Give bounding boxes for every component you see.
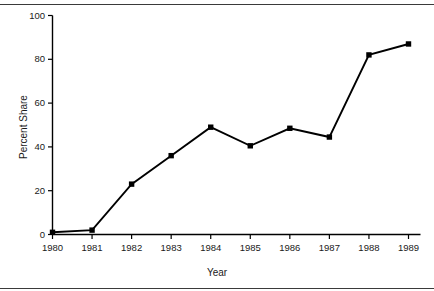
x-tick-label: 1982 [112,243,152,253]
y-tick-label: 20 [19,186,45,196]
data-point-marker [50,230,55,235]
x-tick-label: 1984 [191,243,231,253]
x-tick-label: 1985 [230,243,270,253]
data-point-marker [366,52,371,57]
y-tick-label: 0 [19,230,45,240]
x-tick-label: 1983 [151,243,191,253]
y-axis-title: Percent Share [19,95,29,159]
data-point-marker [287,126,292,131]
x-tick-label: 1988 [349,243,389,253]
x-tick-label: 1980 [33,243,73,253]
x-tick-label: 1986 [270,243,310,253]
y-tick-label: 100 [19,11,45,21]
data-point-marker [248,143,253,148]
data-series-markers [50,41,411,235]
x-axis-title: Year [0,268,434,278]
y-tick-label: 80 [19,54,45,64]
x-tick-label: 1981 [72,243,112,253]
data-point-marker [168,153,173,158]
data-point-marker [327,134,332,139]
x-tick-label: 1989 [389,243,429,253]
data-point-marker [406,41,411,46]
data-point-marker [208,124,213,129]
x-tick-label: 1987 [309,243,349,253]
line-chart-figure: 020406080100 198019811982198319841985198… [0,0,434,291]
data-series-line [53,44,409,232]
data-point-marker [89,227,94,232]
data-point-marker [129,181,134,186]
